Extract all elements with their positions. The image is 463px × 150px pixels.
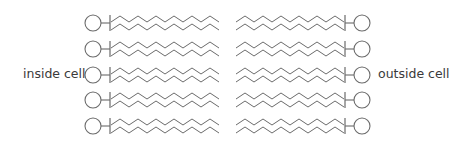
fatty-acid-tail bbox=[111, 50, 219, 56]
polar-head-icon bbox=[354, 41, 370, 57]
lipid-molecule bbox=[85, 15, 219, 31]
fatty-acid-tail bbox=[111, 24, 219, 30]
fatty-acid-tail bbox=[111, 76, 219, 82]
lipid-molecule bbox=[85, 41, 219, 57]
fatty-acid-tail bbox=[111, 42, 219, 48]
fatty-acid-tail bbox=[111, 68, 219, 74]
fatty-acid-tail bbox=[111, 119, 219, 125]
polar-head-icon bbox=[354, 67, 370, 83]
polar-head-icon bbox=[85, 41, 101, 57]
fatty-acid-tail bbox=[111, 127, 219, 133]
fatty-acid-tail bbox=[111, 16, 219, 22]
lipid-molecule bbox=[236, 15, 370, 31]
polar-head-icon bbox=[85, 15, 101, 31]
lipid-molecule bbox=[236, 41, 370, 57]
lipid-molecule bbox=[85, 92, 219, 108]
polar-head-icon bbox=[85, 118, 101, 134]
fatty-acid-tail bbox=[236, 119, 344, 125]
fatty-acid-tail bbox=[236, 50, 344, 56]
polar-head-icon bbox=[354, 118, 370, 134]
polar-head-icon bbox=[354, 92, 370, 108]
fatty-acid-tail bbox=[111, 93, 219, 99]
lipid-molecule bbox=[236, 67, 370, 83]
fatty-acid-tail bbox=[236, 76, 344, 82]
outer-leaflet-lipids bbox=[236, 15, 370, 134]
lipid-molecule bbox=[236, 118, 370, 134]
inner-leaflet-lipids bbox=[85, 15, 219, 134]
fatty-acid-tail bbox=[236, 42, 344, 48]
polar-head-icon bbox=[354, 15, 370, 31]
fatty-acid-tail bbox=[236, 24, 344, 30]
fatty-acid-tail bbox=[236, 101, 344, 107]
lipid-molecule bbox=[85, 118, 219, 134]
polar-head-icon bbox=[85, 67, 101, 83]
polar-head-icon bbox=[85, 92, 101, 108]
outside-cell-label: outside cell bbox=[378, 68, 450, 81]
fatty-acid-tail bbox=[236, 68, 344, 74]
fatty-acid-tail bbox=[236, 93, 344, 99]
lipid-molecule bbox=[236, 92, 370, 108]
fatty-acid-tail bbox=[236, 127, 344, 133]
fatty-acid-tail bbox=[236, 16, 344, 22]
inside-cell-label: inside cell bbox=[23, 68, 86, 81]
lipid-molecule bbox=[85, 67, 219, 83]
fatty-acid-tail bbox=[111, 101, 219, 107]
